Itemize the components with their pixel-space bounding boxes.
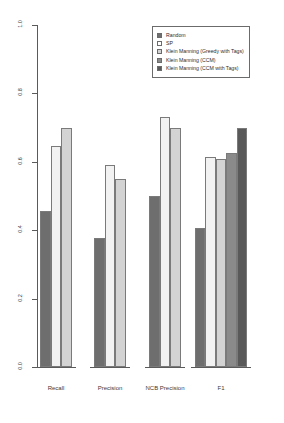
legend-item-label: Klein Manning (CCM with Tags) xyxy=(166,66,239,71)
bar xyxy=(170,128,181,367)
y-axis-tick xyxy=(32,25,37,26)
y-axis-tick xyxy=(32,93,37,94)
bar xyxy=(94,238,105,367)
legend-swatch-icon xyxy=(157,33,162,38)
y-axis-tick-label: 0.0 xyxy=(17,358,23,374)
legend: RandomSPKlein Manning (Greedy with Tags)… xyxy=(152,26,250,78)
legend-swatch-icon xyxy=(157,66,162,71)
bar xyxy=(40,211,51,367)
legend-item: Klein Manning (Greedy with Tags) xyxy=(157,48,244,56)
bar xyxy=(195,228,206,367)
legend-swatch-icon xyxy=(157,58,162,63)
legend-item: Klein Manning (CCM with Tags) xyxy=(157,65,244,73)
y-axis-tick xyxy=(32,162,37,163)
bar xyxy=(205,157,216,367)
legend-item-label: Klein Manning (Greedy with Tags) xyxy=(166,49,244,54)
legend-item-label: Random xyxy=(166,33,186,38)
bar xyxy=(61,128,72,367)
y-axis-tick xyxy=(32,299,37,300)
bar-chart: 0.00.20.40.60.81.0 RecallPrecisionNCB Pr… xyxy=(0,0,284,423)
bar xyxy=(216,159,227,367)
legend-item-label: SP xyxy=(166,41,173,46)
bar xyxy=(237,128,248,367)
legend-item: Random xyxy=(157,31,244,39)
legend-swatch-icon xyxy=(157,49,162,54)
legend-item: SP xyxy=(157,39,244,47)
bar xyxy=(149,196,160,367)
bar xyxy=(160,117,171,367)
x-axis-baseline xyxy=(36,367,76,368)
x-axis-label: F1 xyxy=(181,385,261,391)
y-axis-tick xyxy=(32,230,37,231)
y-axis-tick-label: 0.2 xyxy=(17,290,23,306)
y-axis-line xyxy=(37,25,38,367)
legend-item: Klein Manning (CCM) xyxy=(157,56,244,64)
legend-swatch-icon xyxy=(157,41,162,46)
legend-item-label: Klein Manning (CCM) xyxy=(166,58,216,63)
y-axis-tick-label: 0.6 xyxy=(17,153,23,169)
bar xyxy=(226,153,237,367)
bar xyxy=(105,165,116,367)
x-axis-baseline xyxy=(145,367,185,368)
bar xyxy=(115,179,126,367)
y-axis-tick-label: 0.8 xyxy=(17,84,23,100)
x-axis-baseline xyxy=(90,367,130,368)
x-axis-baseline xyxy=(191,367,252,368)
y-axis-tick-label: 1.0 xyxy=(17,16,23,32)
bar xyxy=(51,146,62,367)
y-axis-tick-label: 0.4 xyxy=(17,221,23,237)
